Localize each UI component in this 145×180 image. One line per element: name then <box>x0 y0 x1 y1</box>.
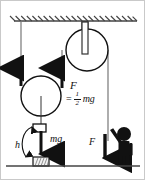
equals-sign: = <box>66 94 72 104</box>
landing-block <box>33 157 49 166</box>
diagram-canvas: F = 1 2 mg mg h F <box>0 0 145 180</box>
fixed-pulley-bracket-front <box>82 22 88 54</box>
fraction-denominator: 2 <box>75 100 79 107</box>
fraction-term-mg: mg <box>83 94 95 104</box>
ceiling-support <box>10 16 137 21</box>
label-force-person: F <box>89 137 95 147</box>
fraction-numerator: 1 <box>75 91 79 98</box>
label-weight-mg: mg <box>50 134 62 144</box>
label-height-h: h <box>15 140 20 150</box>
one-half-fraction: 1 2 <box>74 91 81 107</box>
person-pulling-rope <box>110 127 133 166</box>
hanging-mass-block <box>33 124 46 132</box>
height-arc-arrow <box>22 127 32 157</box>
movable-pulley <box>21 76 61 124</box>
label-force-equation: = 1 2 mg <box>66 91 95 107</box>
